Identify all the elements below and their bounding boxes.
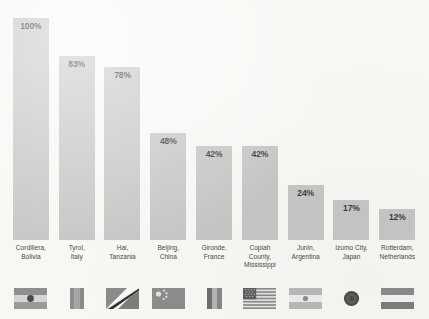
bar-column: 83% (54, 56, 100, 240)
flag-cell (191, 288, 237, 309)
flag-united-states-icon (243, 288, 276, 309)
bar-column: 12% (374, 209, 420, 240)
category-label-line: Izumo City, (330, 244, 374, 253)
category-axis-labels: Cordillera, Bolivia Tyrol, Italy Hai, Ta… (8, 240, 421, 282)
flag-row (8, 282, 421, 314)
bar-tyrol-italy[interactable]: 83% (59, 56, 95, 240)
flag-netherlands-icon (381, 288, 414, 309)
bar-chart: 100% 83% 78% 48% 42% (8, 0, 421, 319)
flag-cell (283, 288, 329, 309)
bar-value-label: 12% (389, 213, 406, 222)
category-label-line: France (192, 253, 236, 262)
plot-area: 100% 83% 78% 48% 42% (8, 0, 421, 240)
flag-japan-icon (341, 288, 362, 309)
category-label-line: Tyrol, (55, 244, 99, 253)
bar-column: 17% (329, 200, 375, 240)
category-label-beijing-china: Beijing, China (145, 244, 191, 282)
category-label-line: Italy (55, 253, 99, 262)
bar-value-label: 83% (68, 60, 85, 69)
category-label-line: Beijing, (146, 244, 190, 253)
category-label-line: County, (238, 253, 282, 262)
category-label-line: Argentina (284, 253, 328, 262)
flag-cell (8, 288, 54, 309)
bar-junin-argentina[interactable]: 24% (288, 185, 324, 240)
bar-beijing-china[interactable]: 48% (150, 133, 186, 240)
flag-cell (145, 288, 191, 309)
flag-argentina-icon (289, 288, 322, 309)
bar-value-label: 100% (20, 22, 41, 31)
category-label-line: Hai, (101, 244, 145, 253)
category-label-rotterdam-netherlands: Rotterdam, Netherlands (374, 244, 420, 282)
flag-cell (374, 288, 420, 309)
category-label-line: China (146, 253, 190, 262)
flag-cell (237, 288, 283, 309)
flag-china-icon (152, 288, 185, 309)
bar-value-label: 17% (343, 204, 360, 213)
category-label-line: Cordillera, (9, 244, 53, 253)
category-label-line: Netherlands (375, 253, 419, 262)
category-label-gironde-france: Gironde, France (191, 244, 237, 282)
category-label-line: Bolivia (9, 253, 53, 262)
category-label-line: Mississippi (238, 261, 282, 270)
category-label-line: Gironde, (192, 244, 236, 253)
bar-rotterdam-netherlands[interactable]: 12% (379, 209, 415, 240)
category-label-line: Tanzania (101, 253, 145, 262)
flag-tanzania-icon (106, 288, 139, 309)
chart-page: 100% 83% 78% 48% 42% (0, 0, 429, 319)
category-label-line: Junin, (284, 244, 328, 253)
bar-column: 24% (283, 185, 329, 240)
bar-copiah-county-mississippi[interactable]: 42% (242, 146, 278, 240)
category-label-izumo-city-japan: Izumo City, Japan (329, 244, 375, 282)
category-label-line: Rotterdam, (375, 244, 419, 253)
bar-column: 42% (191, 146, 237, 240)
bar-izumo-city-japan[interactable]: 17% (333, 200, 369, 240)
flag-bolivia-icon (14, 288, 47, 309)
bar-column: 78% (100, 67, 146, 240)
flag-italy-icon (70, 288, 84, 309)
category-label-cordillera-bolivia: Cordillera, Bolivia (8, 244, 54, 282)
bar-cordillera-bolivia[interactable]: 100% (13, 18, 49, 240)
bar-value-label: 42% (252, 150, 269, 159)
bar-value-label: 24% (297, 189, 314, 198)
bar-value-label: 78% (114, 71, 131, 80)
category-label-copiah-county-mississippi: Copiah County, Mississippi (237, 244, 283, 282)
category-label-tyrol-italy: Tyrol, Italy (54, 244, 100, 282)
flag-france-icon (207, 288, 222, 309)
category-label-hai-tanzania: Hai, Tanzania (100, 244, 146, 282)
bar-column: 48% (145, 133, 191, 240)
bar-hai-tanzania[interactable]: 78% (104, 67, 140, 240)
bar-value-label: 42% (206, 150, 223, 159)
bar-column: 42% (237, 146, 283, 240)
flag-cell (54, 288, 100, 309)
bar-column: 100% (8, 18, 54, 240)
bar-gironde-france[interactable]: 42% (196, 146, 232, 240)
category-label-line: Japan (330, 253, 374, 262)
category-label-line: Copiah (238, 244, 282, 253)
category-label-junin-argentina: Junin, Argentina (283, 244, 329, 282)
flag-cell (329, 288, 375, 309)
flag-cell (100, 288, 146, 309)
bar-value-label: 48% (160, 137, 177, 146)
